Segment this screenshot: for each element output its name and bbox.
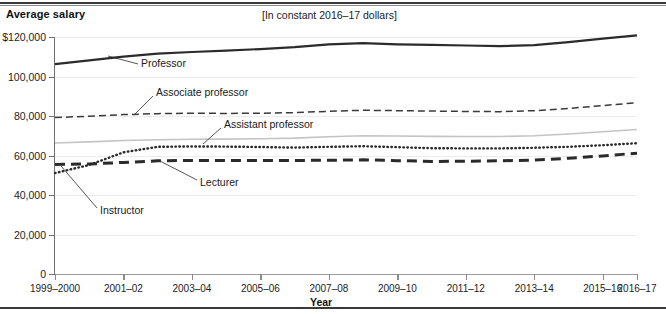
annotation-leader-line (158, 160, 197, 180)
x-axis-title: Year (310, 296, 332, 308)
annotation-leader-line (134, 96, 153, 115)
series-line-assistant-professor (55, 129, 637, 143)
annotation-leader-line (61, 166, 97, 208)
series-line-associate-professor (55, 103, 637, 118)
series-line-instructor (55, 143, 637, 173)
annotation-leader-line (203, 128, 221, 144)
series-label-professor: Professor (141, 57, 186, 69)
series-label-lecturer: Lecturer (200, 176, 239, 188)
series-lines (0, 0, 666, 314)
series-label-instructor: Instructor (100, 204, 144, 216)
series-label-associate-professor: Associate professor (156, 86, 248, 98)
series-line-lecturer (55, 153, 637, 164)
series-label-assistant-professor: Assistant professor (224, 118, 313, 130)
